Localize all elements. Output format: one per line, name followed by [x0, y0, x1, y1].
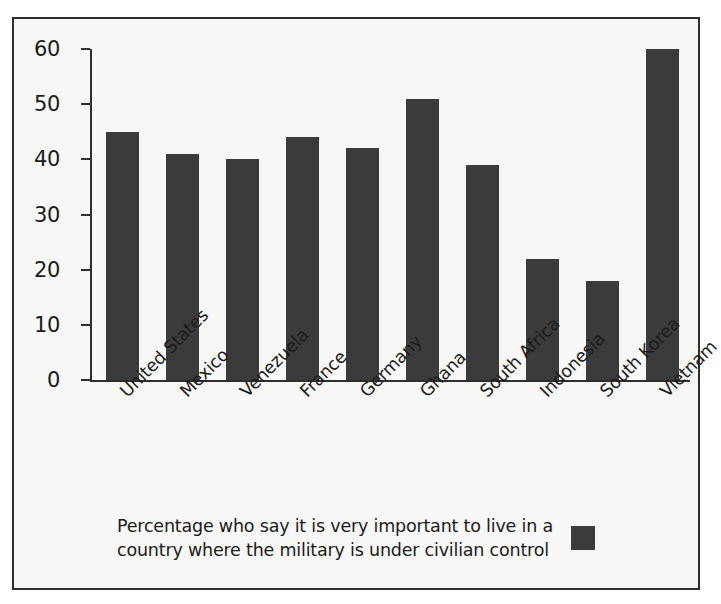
y-axis-tick-labels: 0102030405060 — [14, 19, 60, 350]
y-axis-tick-label: 50 — [34, 92, 60, 116]
bar — [226, 159, 259, 380]
y-axis-tick — [81, 158, 90, 160]
y-axis-tick — [81, 379, 90, 381]
bar — [346, 148, 379, 380]
y-axis-tick-label: 30 — [34, 203, 60, 227]
y-axis-tick — [81, 103, 90, 105]
y-axis-tick — [81, 48, 90, 50]
legend-square-icon — [571, 526, 595, 550]
y-axis-tick-label: 20 — [34, 258, 60, 282]
y-axis-tick — [81, 324, 90, 326]
y-axis-tick-label: 0 — [47, 368, 60, 392]
chart-figure: 0102030405060 United StatesMexicoVenezue… — [12, 17, 700, 590]
y-axis-line — [90, 49, 92, 380]
bar — [466, 165, 499, 380]
x-axis-tick-labels: United StatesMexicoVenezuelaFranceGerman… — [90, 387, 710, 507]
y-axis-tick — [81, 214, 90, 216]
chart-legend: Percentage who say it is very important … — [14, 514, 698, 562]
bar — [106, 132, 139, 380]
y-axis-tick-label: 10 — [34, 313, 60, 337]
y-axis-tick-label: 60 — [34, 37, 60, 61]
legend-label: Percentage who say it is very important … — [117, 514, 553, 562]
y-axis-tick — [81, 269, 90, 271]
y-axis-tick-label: 40 — [34, 147, 60, 171]
